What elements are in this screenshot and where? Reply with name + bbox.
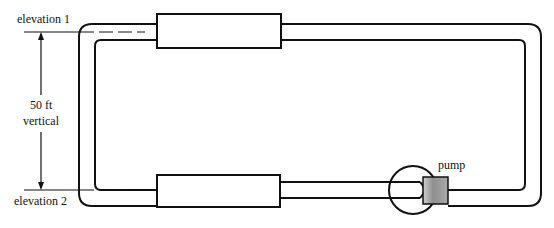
pipe-outer-wall <box>79 24 157 206</box>
pump-motor <box>423 177 448 204</box>
lower-tank <box>157 175 280 207</box>
height-desc-label: vertical <box>23 114 59 129</box>
upper-tank <box>157 14 281 48</box>
pipe-loop-diagram <box>0 0 554 228</box>
elevation-2-label: elevation 2 <box>14 194 67 209</box>
elevation-1-label: elevation 1 <box>17 12 70 27</box>
pipe-inner-wall <box>95 40 157 190</box>
arrow-down-icon <box>38 182 44 190</box>
pump-label: pump <box>438 158 465 173</box>
height-value-label: 50 ft <box>30 98 52 113</box>
arrow-up-icon <box>38 32 44 40</box>
